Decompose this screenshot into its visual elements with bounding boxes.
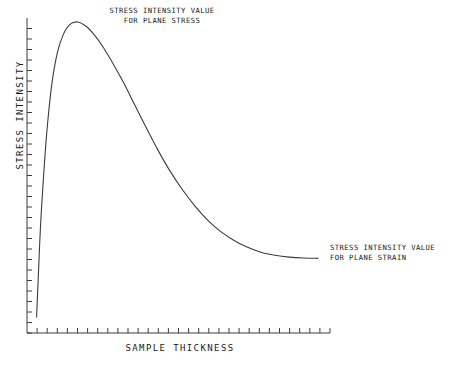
annotation-plane-stress-line2: FOR PLANE STRESS [124,16,200,25]
stress-intensity-curve [37,22,318,317]
y-axis-group [27,18,32,333]
y-axis-ticks [27,29,32,334]
annotation-plane-strain-line2: FOR PLANE STRAIN [330,253,406,262]
plot-canvas [0,0,452,365]
annotation-plane-strain-line1: STRESS INTENSITY VALUE [330,243,435,252]
x-axis-ticks [37,328,330,333]
x-axis-label: SAMPLE THICKNESS [0,343,360,353]
chart-figure: STRESS INTENSITY VALUEFOR PLANE STRESS S… [0,0,452,365]
x-axis-group [27,328,330,333]
annotation-plane-strain: STRESS INTENSITY VALUEFOR PLANE STRAIN [330,243,450,262]
annotation-plane-stress: STRESS INTENSITY VALUEFOR PLANE STRESS [98,6,226,25]
annotation-plane-stress-line1: STRESS INTENSITY VALUE [109,6,214,15]
y-axis-label: STRESS INTENSITY [15,45,25,185]
